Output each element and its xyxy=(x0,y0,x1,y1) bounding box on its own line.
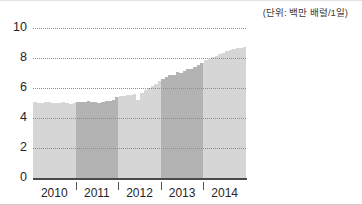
x-tick-label: 2013 xyxy=(162,186,202,200)
x-tick-label: 2014 xyxy=(205,186,245,200)
y-tick-label: 6 xyxy=(5,81,27,94)
gridline xyxy=(33,28,246,29)
plot-area xyxy=(33,28,246,178)
gridline xyxy=(33,148,246,149)
y-tick-label: 10 xyxy=(5,21,27,34)
x-tick-label: 2011 xyxy=(77,186,117,200)
gridline xyxy=(33,88,246,89)
y-tick-label: 2 xyxy=(5,141,27,154)
gridline xyxy=(33,58,246,59)
y-tick-label: 0 xyxy=(5,171,27,184)
series-mask-column xyxy=(242,28,246,47)
gridline xyxy=(33,118,246,119)
y-tick-label: 8 xyxy=(5,51,27,64)
chart-card: (단위: 백만 배럴/1일) 0246810 20102011201220132… xyxy=(0,0,362,205)
x-tick-label: 2010 xyxy=(34,186,74,200)
series-area xyxy=(33,28,246,178)
x-axis-line xyxy=(33,178,247,180)
y-tick-label: 4 xyxy=(5,111,27,124)
x-tick-label: 2012 xyxy=(120,186,160,200)
